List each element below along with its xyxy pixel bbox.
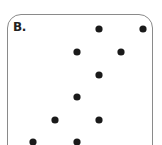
dot <box>117 48 124 55</box>
dot <box>73 93 80 100</box>
dot <box>73 138 80 145</box>
dot <box>51 116 58 123</box>
dot <box>29 138 36 145</box>
dot <box>95 71 102 78</box>
dot <box>95 116 102 123</box>
dot <box>73 48 80 55</box>
dot <box>95 25 102 32</box>
dot <box>139 25 146 32</box>
dot-pattern <box>0 0 162 145</box>
